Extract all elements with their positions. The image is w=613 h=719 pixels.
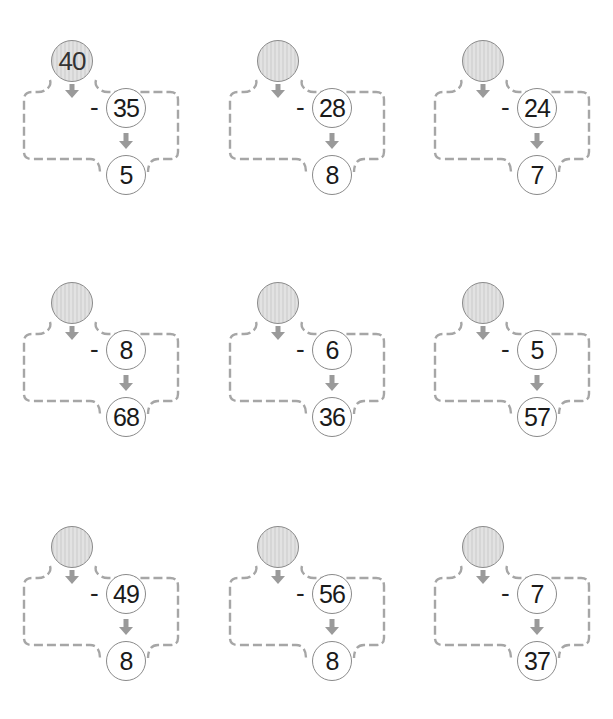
subtraction-machine-6: - 5 57 bbox=[431, 282, 601, 482]
machine-frame bbox=[431, 40, 601, 240]
minus-operator: - bbox=[90, 92, 99, 123]
minus-operator: - bbox=[90, 578, 99, 609]
subtrahend-circle: 28 bbox=[312, 88, 352, 128]
start-number-circle[interactable] bbox=[51, 282, 93, 324]
subtraction-machine-2: - 28 8 bbox=[226, 40, 396, 240]
result-value: 8 bbox=[326, 161, 339, 190]
result-circle: 7 bbox=[517, 155, 557, 195]
result-value: 8 bbox=[120, 647, 133, 676]
down-arrow-icon bbox=[530, 619, 544, 635]
machine-frame bbox=[226, 526, 396, 719]
down-arrow-icon bbox=[119, 133, 133, 149]
down-arrow-icon bbox=[65, 326, 79, 340]
result-value: 7 bbox=[531, 161, 544, 190]
subtrahend-circle: 7 bbox=[517, 574, 557, 614]
start-number-circle[interactable] bbox=[462, 282, 504, 324]
start-number-circle[interactable] bbox=[462, 526, 504, 568]
down-arrow-icon bbox=[65, 84, 79, 98]
subtrahend-circle: 5 bbox=[517, 330, 557, 370]
result-value: 68 bbox=[113, 403, 139, 432]
down-arrow-icon bbox=[476, 570, 490, 584]
subtrahend-value: 28 bbox=[319, 94, 345, 123]
subtraction-machine-4: - 8 68 bbox=[20, 282, 190, 482]
minus-operator: - bbox=[501, 92, 510, 123]
result-value: 8 bbox=[326, 647, 339, 676]
result-circle: 68 bbox=[106, 397, 146, 437]
down-arrow-icon bbox=[271, 326, 285, 340]
subtrahend-value: 5 bbox=[531, 336, 544, 365]
start-number-circle[interactable]: 40 bbox=[51, 40, 93, 82]
subtraction-machine-8: - 56 8 bbox=[226, 526, 396, 719]
down-arrow-icon bbox=[119, 375, 133, 391]
result-circle: 5 bbox=[106, 155, 146, 195]
subtrahend-value: 7 bbox=[531, 580, 544, 609]
machine-frame bbox=[20, 282, 190, 482]
subtraction-machine-9: - 7 37 bbox=[431, 526, 601, 719]
down-arrow-icon bbox=[271, 84, 285, 98]
down-arrow-icon bbox=[325, 375, 339, 391]
subtrahend-value: 8 bbox=[120, 336, 133, 365]
down-arrow-icon bbox=[271, 570, 285, 584]
down-arrow-icon bbox=[476, 84, 490, 98]
subtrahend-circle: 6 bbox=[312, 330, 352, 370]
subtraction-machine-1: 40 - 35 5 bbox=[20, 40, 190, 240]
result-circle: 8 bbox=[312, 155, 352, 195]
start-value: 40 bbox=[59, 46, 86, 77]
start-number-circle[interactable] bbox=[462, 40, 504, 82]
result-circle: 36 bbox=[312, 397, 352, 437]
minus-operator: - bbox=[296, 578, 305, 609]
machine-frame bbox=[226, 282, 396, 482]
subtrahend-value: 35 bbox=[113, 94, 139, 123]
minus-operator: - bbox=[90, 334, 99, 365]
start-number-circle[interactable] bbox=[257, 282, 299, 324]
down-arrow-icon bbox=[119, 619, 133, 635]
subtraction-machine-5: - 6 36 bbox=[226, 282, 396, 482]
result-circle: 37 bbox=[517, 641, 557, 681]
subtrahend-circle: 35 bbox=[106, 88, 146, 128]
subtrahend-value: 6 bbox=[326, 336, 339, 365]
subtrahend-circle: 56 bbox=[312, 574, 352, 614]
result-value: 36 bbox=[319, 403, 345, 432]
machine-frame bbox=[20, 526, 190, 719]
minus-operator: - bbox=[501, 334, 510, 365]
result-value: 5 bbox=[120, 161, 133, 190]
subtrahend-circle: 24 bbox=[517, 88, 557, 128]
subtraction-machine-7: - 49 8 bbox=[20, 526, 190, 719]
subtrahend-value: 49 bbox=[113, 580, 139, 609]
subtraction-machine-3: - 24 7 bbox=[431, 40, 601, 240]
result-circle: 8 bbox=[312, 641, 352, 681]
result-value: 57 bbox=[524, 403, 550, 432]
start-number-circle[interactable] bbox=[257, 40, 299, 82]
down-arrow-icon bbox=[530, 133, 544, 149]
result-circle: 57 bbox=[517, 397, 557, 437]
down-arrow-icon bbox=[65, 570, 79, 584]
minus-operator: - bbox=[501, 578, 510, 609]
result-circle: 8 bbox=[106, 641, 146, 681]
machine-frame bbox=[226, 40, 396, 240]
down-arrow-icon bbox=[325, 133, 339, 149]
machine-frame bbox=[20, 40, 190, 240]
minus-operator: - bbox=[296, 334, 305, 365]
subtrahend-circle: 49 bbox=[106, 574, 146, 614]
subtrahend-value: 56 bbox=[319, 580, 345, 609]
start-number-circle[interactable] bbox=[257, 526, 299, 568]
subtrahend-value: 24 bbox=[524, 94, 550, 123]
subtrahend-circle: 8 bbox=[106, 330, 146, 370]
down-arrow-icon bbox=[530, 375, 544, 391]
start-number-circle[interactable] bbox=[51, 526, 93, 568]
down-arrow-icon bbox=[325, 619, 339, 635]
result-value: 37 bbox=[524, 647, 550, 676]
down-arrow-icon bbox=[476, 326, 490, 340]
machine-frame bbox=[431, 526, 601, 719]
minus-operator: - bbox=[296, 92, 305, 123]
machine-frame bbox=[431, 282, 601, 482]
